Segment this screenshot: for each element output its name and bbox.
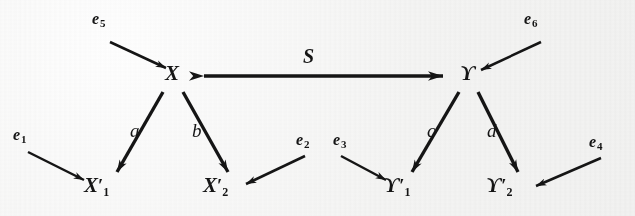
node-Y-label: ϒ xyxy=(460,61,475,85)
node-X2-prime-subscript: 2 xyxy=(222,185,228,199)
external-edge-e1 xyxy=(28,152,84,180)
external-label-e5-subscript: 5 xyxy=(100,17,106,29)
node-Y1-prime-base: ϒ xyxy=(384,173,399,197)
node-X-label: X xyxy=(165,61,179,85)
node-X2-prime: X′2 xyxy=(203,175,228,198)
node-X2-prime-base: X xyxy=(203,173,217,197)
node-Y2-prime: ϒ′2 xyxy=(486,175,513,198)
external-label-e4: e4 xyxy=(589,134,603,152)
external-label-e5-base: e xyxy=(92,10,99,27)
edge-d xyxy=(478,92,518,172)
node-Y: ϒ xyxy=(460,63,475,84)
external-label-e1-base: e xyxy=(13,126,20,143)
external-edge-e4 xyxy=(536,158,601,186)
external-label-e4-subscript: 4 xyxy=(597,140,603,152)
edge-b xyxy=(183,92,228,172)
external-label-e5: e5 xyxy=(92,11,106,29)
edge-a xyxy=(117,92,163,172)
edge-label-d: d xyxy=(487,121,497,140)
node-Y1-prime: ϒ′1 xyxy=(384,175,411,198)
external-edge-e5 xyxy=(110,42,166,68)
edge-label-c: c xyxy=(427,121,435,140)
external-label-e2-base: e xyxy=(296,131,303,148)
diagram-canvas: X ϒ X′1 X′2 ϒ′1 ϒ′2 S a b c d e1 e2 e3 e… xyxy=(0,0,635,216)
external-label-e6: e6 xyxy=(524,11,538,29)
edge-label-b: b xyxy=(192,121,202,140)
node-X1-prime-subscript: 1 xyxy=(103,185,109,199)
node-X: X xyxy=(165,63,179,84)
external-label-e4-base: e xyxy=(589,133,596,150)
external-label-e2-subscript: 2 xyxy=(304,138,310,150)
external-label-e3: e3 xyxy=(333,132,347,150)
external-label-e6-subscript: 6 xyxy=(532,17,538,29)
node-Y1-prime-subscript: 1 xyxy=(405,185,411,199)
external-label-e1-subscript: 1 xyxy=(21,133,27,145)
node-X1-prime-base: X xyxy=(84,173,98,197)
external-edge-e6 xyxy=(481,42,541,70)
external-edge-e3 xyxy=(341,156,386,180)
edge-c xyxy=(412,92,459,172)
node-Y2-prime-subscript: 2 xyxy=(507,185,513,199)
node-X1-prime: X′1 xyxy=(84,175,109,198)
external-edge-e2 xyxy=(246,156,305,184)
external-label-e6-base: e xyxy=(524,10,531,27)
external-label-e3-subscript: 3 xyxy=(341,138,347,150)
external-label-e3-base: e xyxy=(333,131,340,148)
edge-label-S: S xyxy=(303,46,314,66)
node-Y2-prime-base: ϒ xyxy=(486,173,501,197)
external-label-e2: e2 xyxy=(296,132,310,150)
edge-label-a: a xyxy=(130,121,140,140)
external-label-e1: e1 xyxy=(13,127,27,145)
